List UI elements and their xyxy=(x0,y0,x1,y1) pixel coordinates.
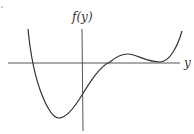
vertical-axis-label: f(y) xyxy=(71,10,93,24)
stray-dot xyxy=(1,6,3,8)
function-curve xyxy=(28,29,182,118)
vertical-axis xyxy=(82,29,83,131)
horizontal-axis-label: y xyxy=(183,56,191,70)
function-graph: f(y) y xyxy=(0,0,194,134)
